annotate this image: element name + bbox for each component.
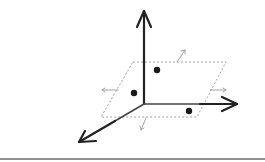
3d-axes-diagram (0, 0, 265, 162)
direction-arrow-right-icon (210, 88, 226, 92)
dashed-plane (101, 62, 226, 117)
direction-arrow-up-right-icon (177, 50, 185, 62)
direction-arrow-down-left-icon (140, 118, 146, 130)
point-2 (131, 90, 137, 96)
point-3 (186, 108, 192, 114)
point-1 (154, 67, 160, 73)
depth-axis-arrow (79, 104, 144, 142)
vertical-axis-arrow (137, 11, 151, 104)
